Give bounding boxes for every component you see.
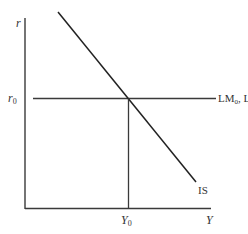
lm-label: LM0, LM1 bbox=[218, 92, 248, 106]
y0-label: Y0 bbox=[121, 213, 132, 228]
is-lm-diagram: r r0 LM0, LM1 IS Y0 Y bbox=[0, 0, 248, 234]
y-axis-label: r bbox=[16, 16, 21, 30]
is-label: IS bbox=[198, 184, 208, 196]
is-curve bbox=[58, 12, 196, 182]
x-axis-label: Y bbox=[206, 213, 214, 227]
r0-label: r0 bbox=[8, 91, 17, 106]
